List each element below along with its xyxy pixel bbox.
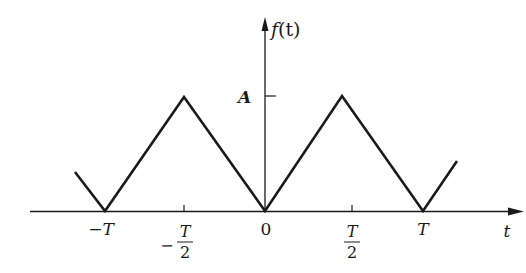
tick-label-neg-half-T-minus: − bbox=[160, 236, 173, 255]
tick-label-neg-half-T-num: T bbox=[180, 222, 192, 241]
triangular-wave-diagram: f(t) A −T − T 2 0 T 2 T t bbox=[0, 0, 526, 273]
tick-label-T: T bbox=[417, 219, 430, 239]
tick-label-zero: 0 bbox=[261, 219, 272, 239]
tick-label-half-T-den: 2 bbox=[347, 243, 357, 262]
tick-label-neg-T: −T bbox=[88, 219, 115, 239]
waveform bbox=[75, 96, 457, 211]
x-axis-arrow-icon bbox=[508, 208, 524, 216]
y-axis-label: f(t) bbox=[269, 18, 301, 40]
tick-label-half-T-num: T bbox=[347, 222, 359, 241]
x-axis-label: t bbox=[504, 221, 511, 241]
tick-label-neg-half-T-den: 2 bbox=[180, 243, 190, 262]
amplitude-label: A bbox=[236, 87, 251, 107]
y-axis-arrow-icon bbox=[262, 17, 269, 31]
